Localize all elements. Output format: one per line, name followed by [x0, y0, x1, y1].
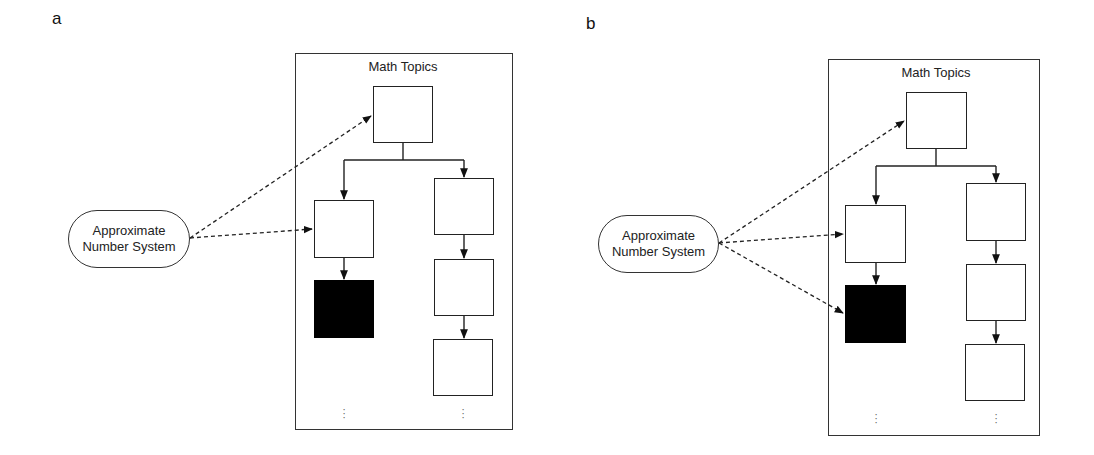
panel-b: b Math Topics ··· ··· ApproximateNumber …: [0, 0, 1094, 455]
topic-node-left-1: [845, 205, 906, 263]
topic-node-top: [906, 92, 967, 149]
topic-node-right-3: [965, 344, 1025, 401]
topic-node-right-1: [966, 183, 1026, 241]
continuation-dots-right: ···: [993, 412, 999, 424]
ans-label-line1: Approximate: [622, 228, 695, 243]
ans-label-line2: Number System: [612, 244, 705, 259]
approximate-number-system-node: ApproximateNumber System: [598, 215, 719, 273]
topic-node-left-2-highlighted: [845, 285, 906, 343]
panel-label-b: b: [586, 14, 595, 34]
continuation-dots-left: ···: [873, 412, 879, 424]
math-topics-title: Math Topics: [856, 65, 1016, 80]
topic-node-right-2: [966, 264, 1026, 321]
